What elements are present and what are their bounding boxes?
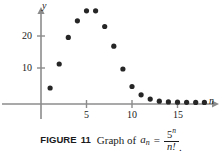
caption-variable: an: [140, 133, 150, 147]
fraction-denominator: n!: [165, 142, 178, 153]
data-point: [148, 97, 153, 102]
caption-figure-number: 11: [81, 134, 91, 145]
caption-figure-word: FIGURE: [40, 134, 77, 145]
fraction-numerator: 5n: [165, 127, 178, 140]
data-point: [175, 100, 180, 105]
y-tick-label-20: 20: [8, 31, 32, 41]
data-point: [93, 8, 98, 13]
data-point: [129, 84, 134, 89]
x-axis-label: n: [209, 96, 214, 106]
data-point: [120, 66, 125, 71]
data-point: [84, 8, 89, 13]
figure-caption: FIGURE 11 Graph of an = 5n n! .: [0, 122, 222, 157]
scatter-plot-svg: [0, 0, 222, 122]
caption-period: .: [179, 141, 182, 153]
y-tick-label-10: 10: [8, 63, 32, 73]
caption-line: FIGURE 11 Graph of an = 5n n! .: [40, 127, 181, 153]
data-point: [111, 44, 116, 49]
caption-text: Graph of: [97, 134, 136, 146]
x-tick-label-15: 15: [165, 110, 191, 120]
caption-equals-sign: =: [154, 134, 160, 146]
fraction-numerator-exponent: n: [172, 126, 176, 135]
y-axis-label: y: [42, 1, 46, 11]
figure-container: y n 20 10 5 10 15 FIGURE 11 Graph of an …: [0, 0, 222, 157]
data-point: [48, 85, 53, 90]
data-point: [57, 61, 62, 66]
data-point: [166, 99, 171, 104]
data-point: [66, 35, 71, 40]
caption-variable-subscript: n: [146, 138, 150, 147]
data-point: [202, 100, 207, 105]
data-point: [193, 100, 198, 105]
data-point: [157, 99, 162, 104]
data-point: [139, 92, 144, 97]
x-tick-label-5: 5: [74, 110, 99, 120]
data-point: [75, 18, 80, 23]
caption-fraction: 5n n!: [164, 127, 179, 153]
x-tick-label-10: 10: [119, 110, 145, 120]
data-point: [102, 24, 107, 29]
data-point-group: [48, 8, 207, 105]
plot-area: y n 20 10 5 10 15: [0, 0, 222, 122]
data-point: [184, 100, 189, 105]
